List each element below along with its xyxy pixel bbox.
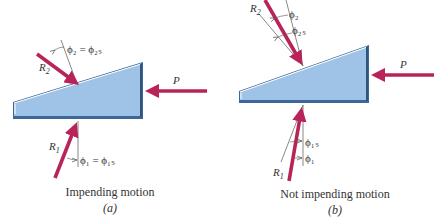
angle-label-bottom-a: ϕ₁ = ϕ₁ₛ <box>80 154 115 166</box>
angle-label-top-a: ϕ₂ = ϕ₂ₛ <box>67 43 102 55</box>
angle-label-phi2s-b: ϕ₂ₛ <box>292 24 306 36</box>
panel-b: ϕ₂ ϕ₂ₛ R2 P ϕ₁ₛ ϕ₁ R1 Not impending moti… <box>239 0 434 217</box>
label-p-a: P <box>172 74 180 86</box>
sublabel-a: (a) <box>103 201 117 215</box>
wedge-a <box>13 62 143 119</box>
label-r1-b: R1 <box>272 166 284 181</box>
wedge-friction-diagram: ϕ₂ = ϕ₂ₛ R2 P R1 ϕ₁ = ϕ₁ₛ Impending moti… <box>0 0 434 219</box>
label-r1-a: R1 <box>48 140 60 155</box>
angle-arc-phi1-a <box>67 158 77 160</box>
caption-b: Not impending motion <box>280 187 389 201</box>
caption-a: Impending motion <box>66 185 155 199</box>
angle-label-phi2-b: ϕ₂ <box>289 8 299 20</box>
sublabel-b: (b) <box>328 203 342 217</box>
force-r1-arrow-b <box>289 112 301 181</box>
angle-label-phi1s-b: ϕ₁ₛ <box>305 136 319 148</box>
angle-arc-phi2-a <box>55 47 64 50</box>
label-r2-b: R2 <box>249 2 261 17</box>
angle-label-phi1-b: ϕ₁ <box>305 152 315 164</box>
angle-arc-phi2-b <box>275 15 288 18</box>
panel-a: ϕ₂ = ϕ₂ₛ R2 P R1 ϕ₁ = ϕ₁ₛ Impending moti… <box>13 40 207 215</box>
label-p-b: P <box>399 58 407 70</box>
wedge-b <box>239 45 369 103</box>
